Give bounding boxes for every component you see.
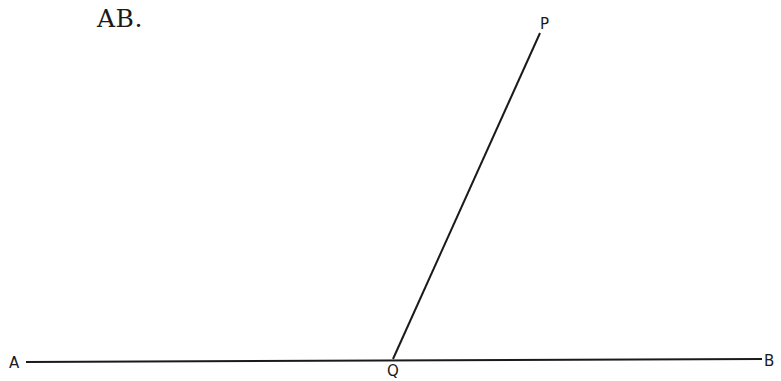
- label-p: P: [540, 15, 549, 33]
- label-b: B: [764, 352, 774, 370]
- segment-qp: [393, 33, 540, 359]
- label-a: A: [9, 354, 20, 372]
- geometry-diagram: A B Q P: [0, 0, 781, 381]
- label-q: Q: [387, 362, 399, 380]
